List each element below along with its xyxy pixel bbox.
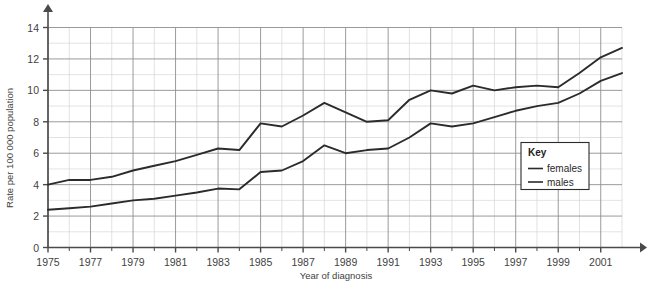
- y-tick-label: 6: [33, 147, 39, 159]
- legend-title: Key: [528, 147, 547, 158]
- legend-label-females: females: [547, 163, 582, 174]
- axes: [43, 4, 647, 253]
- x-tick-label: 1987: [291, 256, 315, 268]
- legend-label-males: males: [547, 177, 574, 188]
- chart-legend: Key females males: [521, 143, 589, 190]
- x-axis-arrow-icon: [640, 243, 647, 253]
- x-tick-label: 1989: [334, 256, 358, 268]
- x-tick-label: 1977: [79, 256, 103, 268]
- y-tick-label: 8: [33, 116, 39, 128]
- y-tick-label: 2: [33, 210, 39, 222]
- x-tick-label: 1983: [206, 256, 230, 268]
- y-tick-label: 4: [33, 179, 39, 191]
- x-tick-label: 1997: [504, 256, 528, 268]
- y-axis-title: Rate per 100 000 population: [4, 88, 15, 208]
- x-tick-label: 1981: [164, 256, 188, 268]
- line-chart: 0246810121419751977197919811983198519871…: [0, 0, 647, 285]
- x-tick-label: 1975: [36, 256, 60, 268]
- y-tick-label: 12: [27, 53, 39, 65]
- y-axis-arrow-icon: [43, 4, 53, 12]
- x-tick-label: 1985: [249, 256, 273, 268]
- x-tick-label: 1991: [376, 256, 400, 268]
- y-tick-label: 0: [33, 242, 39, 254]
- chart-canvas: 0246810121419751977197919811983198519871…: [0, 0, 647, 285]
- x-axis-title: Year of diagnosis: [300, 270, 373, 281]
- axis-ticks: [43, 28, 601, 253]
- y-tick-label: 14: [27, 22, 39, 34]
- x-tick-label: 2001: [589, 256, 613, 268]
- grid-minor-lines: [48, 28, 622, 248]
- y-tick-label: 10: [27, 84, 39, 96]
- x-tick-label: 1979: [121, 256, 145, 268]
- x-tick-label: 1999: [547, 256, 571, 268]
- x-tick-label: 1993: [419, 256, 443, 268]
- x-tick-label: 1995: [462, 256, 486, 268]
